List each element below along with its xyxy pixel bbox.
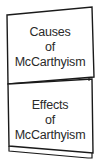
flap-causes-line-2: of xyxy=(8,40,92,55)
flap-effects-label: Effects of McCarthyism xyxy=(8,98,92,143)
flap-effects-line-3: McCarthyism xyxy=(8,128,92,143)
flap-causes-label: Causes of McCarthyism xyxy=(8,25,92,70)
flap-causes-line-1: Causes xyxy=(8,25,92,40)
flap-effects-line-2: of xyxy=(8,113,92,128)
flap-causes-line-3: McCarthyism xyxy=(8,55,92,70)
flap-effects-line-1: Effects xyxy=(8,98,92,113)
